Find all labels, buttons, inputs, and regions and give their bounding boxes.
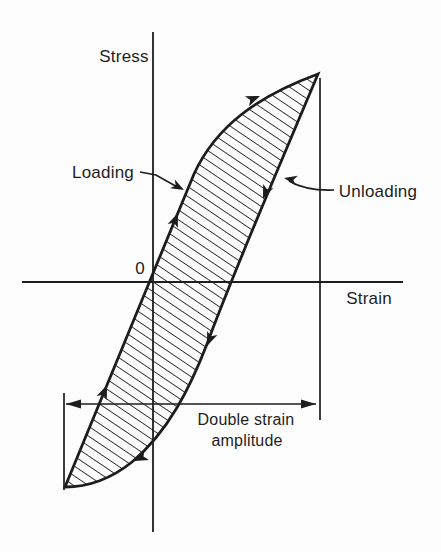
dimension-arrow-left-icon — [66, 400, 81, 409]
origin-label: 0 — [135, 260, 145, 277]
strain-axis-label: Strain — [346, 290, 392, 307]
hysteresis-loop-plot — [0, 0, 441, 552]
double-strain-amplitude-label-line1: Double strain — [198, 412, 295, 428]
double-strain-amplitude-label-line2: amplitude — [211, 433, 282, 449]
unloading-label: Unloading — [339, 183, 417, 200]
loading-leader-line — [140, 172, 179, 188]
loading-leader-arrow-icon — [170, 179, 186, 194]
dimension-arrow-right-icon — [301, 400, 316, 409]
stress-axis-label: Stress — [99, 48, 148, 65]
unloading-leader-line — [289, 181, 334, 190]
loading-label: Loading — [72, 164, 134, 181]
stress-strain-hysteresis-figure: Stress Strain 0 Loading Unloading Double… — [0, 0, 441, 552]
